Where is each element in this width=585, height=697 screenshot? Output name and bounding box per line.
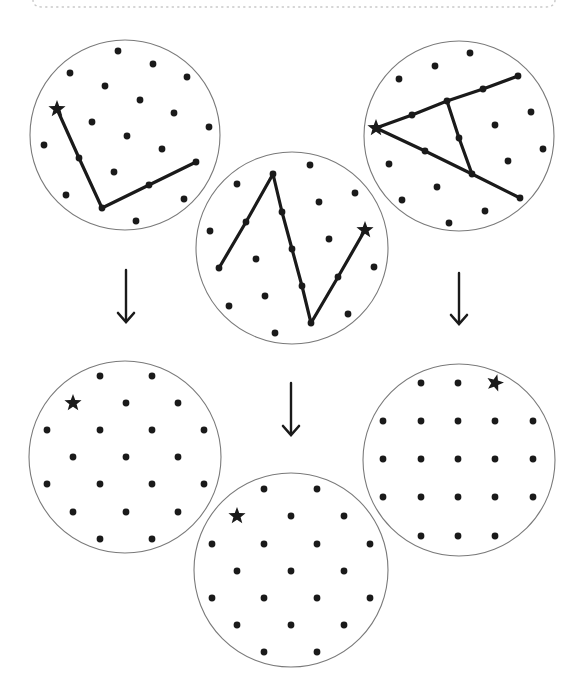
circle-panel-bottom-right xyxy=(363,364,555,556)
dot xyxy=(326,236,333,243)
dot xyxy=(41,142,48,149)
dot xyxy=(455,456,462,463)
dot xyxy=(316,199,323,206)
dot xyxy=(123,400,130,407)
dot xyxy=(455,533,462,540)
dot xyxy=(530,494,537,501)
arrow-right-icon xyxy=(451,273,467,324)
dot xyxy=(380,494,387,501)
dot xyxy=(279,209,286,216)
dot xyxy=(469,171,476,178)
dot xyxy=(345,311,352,318)
dot xyxy=(308,320,315,327)
circle-panel-top-middle xyxy=(196,152,388,344)
dot xyxy=(159,146,166,153)
dot xyxy=(455,494,462,501)
dot xyxy=(314,486,321,493)
dot xyxy=(102,83,109,90)
dot xyxy=(181,196,188,203)
dot xyxy=(352,190,359,197)
dot xyxy=(455,380,462,387)
dot xyxy=(530,418,537,425)
dot xyxy=(480,86,487,93)
dot xyxy=(492,418,499,425)
circle-panel-bottom-left xyxy=(29,361,221,553)
dot xyxy=(288,622,295,629)
dot xyxy=(492,122,499,129)
dot xyxy=(341,622,348,629)
dot xyxy=(341,568,348,575)
dot xyxy=(418,456,425,463)
dot xyxy=(97,536,104,543)
dot-pattern-diagram xyxy=(0,0,585,697)
dot xyxy=(146,182,153,189)
dot xyxy=(444,98,451,105)
dot xyxy=(111,169,118,176)
dot xyxy=(243,219,250,226)
star-icon xyxy=(356,221,373,237)
dot xyxy=(201,427,208,434)
circle-panel-top-right xyxy=(364,41,554,231)
dot xyxy=(418,380,425,387)
dot xyxy=(289,246,296,253)
dot xyxy=(482,208,489,215)
dot xyxy=(299,283,306,290)
connecting-line xyxy=(376,128,520,198)
dot xyxy=(150,61,157,68)
dot xyxy=(456,135,463,142)
dot xyxy=(149,536,156,543)
dot xyxy=(530,456,537,463)
dot xyxy=(137,97,144,104)
star-icon xyxy=(228,507,245,523)
dot xyxy=(123,454,130,461)
dot xyxy=(341,513,348,520)
dot xyxy=(234,622,241,629)
star-icon xyxy=(367,119,384,135)
dot xyxy=(288,568,295,575)
arrow-left-icon xyxy=(118,270,134,322)
star-icon xyxy=(48,100,65,116)
dotted-border xyxy=(33,0,555,7)
dot xyxy=(226,303,233,310)
diagram-canvas xyxy=(0,0,585,697)
dot xyxy=(386,161,393,168)
dotted-border-line xyxy=(33,0,555,7)
dot xyxy=(184,74,191,81)
dot xyxy=(422,148,429,155)
dot xyxy=(99,205,106,212)
circle-panel-top-left xyxy=(30,40,220,230)
dot xyxy=(492,494,499,501)
dot xyxy=(432,63,439,70)
dot xyxy=(175,400,182,407)
dot xyxy=(540,146,547,153)
dot xyxy=(288,513,295,520)
dot xyxy=(207,228,214,235)
star-icon xyxy=(487,374,504,391)
dot xyxy=(234,181,241,188)
dot xyxy=(63,192,70,199)
dot xyxy=(314,541,321,548)
dot xyxy=(97,373,104,380)
dot xyxy=(307,162,314,169)
dot xyxy=(89,119,96,126)
dot xyxy=(261,595,268,602)
dot xyxy=(149,427,156,434)
arrows xyxy=(118,270,467,435)
dot xyxy=(262,293,269,300)
dot xyxy=(133,218,140,225)
dot xyxy=(193,159,200,166)
dot xyxy=(380,418,387,425)
dot xyxy=(380,456,387,463)
dot xyxy=(314,649,321,656)
dot xyxy=(272,330,279,337)
star-icon xyxy=(64,394,81,410)
dot xyxy=(175,454,182,461)
dot xyxy=(253,256,260,263)
dot xyxy=(528,109,535,116)
dot xyxy=(44,481,51,488)
dot xyxy=(261,541,268,548)
dot xyxy=(115,48,122,55)
dot xyxy=(335,274,342,281)
dot xyxy=(124,133,131,140)
dot xyxy=(97,481,104,488)
